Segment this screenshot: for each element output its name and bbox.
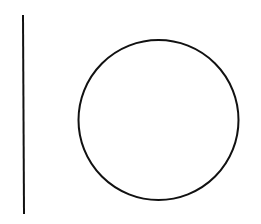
circle-shape (79, 40, 239, 200)
vertical-line (23, 15, 24, 214)
diagram-canvas (0, 0, 261, 224)
diagram-svg (0, 0, 261, 224)
